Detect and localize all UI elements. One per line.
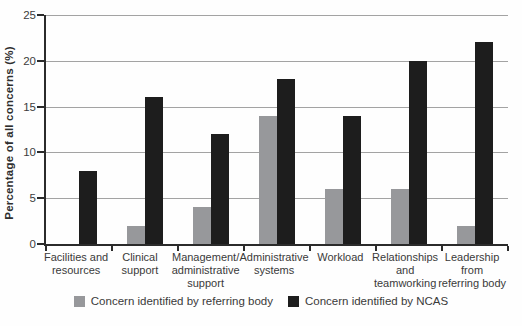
- x-tick-mark-7: [507, 246, 509, 251]
- y-tick-label-5: 5: [0, 192, 36, 204]
- y-tick-label-25: 25: [0, 9, 36, 21]
- bar-group-4: [244, 15, 310, 244]
- category-label-2: Clinicalsupport: [108, 251, 171, 290]
- bar-ncas: [343, 116, 361, 244]
- y-tick-mark-5: [37, 197, 44, 199]
- category-label-3: Management/administrativesupport: [172, 251, 240, 290]
- bar-ncas: [79, 171, 97, 244]
- y-tick-mark-20: [37, 60, 44, 62]
- bar-group-6: [376, 15, 442, 244]
- category-label-4: Administrativesystems: [240, 251, 309, 290]
- bar-referring-body: [325, 189, 343, 244]
- legend-label-referring-body: Concern identified by referring body: [91, 295, 273, 307]
- category-label-1: Facilities andresources: [44, 251, 108, 290]
- legend-item-referring-body: Concern identified by referring body: [74, 295, 273, 307]
- y-tick-mark-25: [37, 14, 44, 16]
- bar-referring-body: [193, 207, 211, 244]
- bar-ncas: [475, 42, 493, 244]
- bar-ncas: [211, 134, 229, 244]
- bar-referring-body: [127, 226, 145, 244]
- bar-group-7: [442, 15, 508, 244]
- legend-label-ncas: Concern identified by NCAS: [305, 295, 448, 307]
- category-label-5: Workload: [309, 251, 372, 290]
- y-axis-tick-labels: 0510152025: [0, 15, 38, 244]
- y-tick-mark-15: [37, 106, 44, 108]
- y-tick-mark-10: [37, 151, 44, 153]
- bar-referring-body: [457, 226, 475, 244]
- category-label-7: Leadershipfromreferring body: [438, 251, 506, 290]
- plot-area: [44, 15, 508, 246]
- legend-swatch-ncas: [288, 296, 299, 307]
- x-axis-category-labels: Facilities andresourcesClinicalsupportMa…: [44, 251, 506, 290]
- y-tick-label-15: 15: [0, 101, 36, 113]
- bar-referring-body: [259, 116, 277, 244]
- y-tick-label-10: 10: [0, 146, 36, 158]
- bar-group-1: [46, 15, 112, 244]
- y-tick-label-0: 0: [0, 238, 36, 250]
- legend: Concern identified by referring bodyConc…: [0, 295, 522, 307]
- bar-group-5: [310, 15, 376, 244]
- y-tick-label-20: 20: [0, 55, 36, 67]
- y-tick-mark-0: [37, 243, 44, 245]
- bar-referring-body: [391, 189, 409, 244]
- bar-ncas: [409, 61, 427, 244]
- category-label-6: Relationshipsandteamworking: [372, 251, 438, 290]
- bar-group-2: [112, 15, 178, 244]
- bar-ncas: [277, 79, 295, 244]
- legend-item-ncas: Concern identified by NCAS: [288, 295, 448, 307]
- bar-chart-figure: Percentage of all concerns (%) 051015202…: [0, 0, 522, 326]
- bar-ncas: [145, 97, 163, 244]
- bar-group-3: [178, 15, 244, 244]
- legend-swatch-referring-body: [74, 296, 85, 307]
